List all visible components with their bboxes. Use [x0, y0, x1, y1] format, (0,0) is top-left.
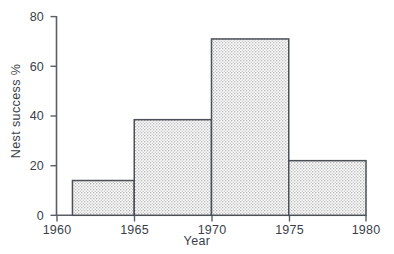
bar-1975-1980 [289, 161, 366, 216]
y-axis-title: Nest success % [9, 41, 23, 181]
x-axis-title: Year [0, 234, 394, 248]
bar-1970-1975 [212, 39, 289, 215]
y-tick-marks [51, 17, 57, 216]
x-tick-marks [57, 215, 366, 221]
chart-canvas [0, 0, 394, 254]
bar-1961-1965 [72, 181, 134, 216]
bar-series [72, 39, 366, 215]
chart-figure: 80 60 40 20 0 1960 1965 1970 1975 1980 N… [0, 0, 394, 254]
y-tick-label-0: 0 [10, 209, 44, 223]
bar-1965-1970 [134, 120, 211, 216]
y-tick-label-80: 80 [10, 10, 44, 24]
